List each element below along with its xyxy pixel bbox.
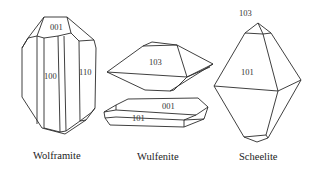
wulfenite-face-label-001: 001: [162, 101, 175, 111]
wolframite-prism-edge-4: [64, 36, 66, 131]
wolframite-face-label-001: 001: [50, 22, 63, 32]
caption-wolframite: Wolframite: [33, 150, 81, 161]
wulfenite-pyramidal-crystal: 103: [107, 42, 213, 91]
wulfenite-tab-top-edge: [104, 107, 208, 115]
wulfenite-tabular-crystal: 001 101: [104, 98, 208, 127]
wulfenite-face-label-101: 101: [132, 113, 145, 123]
scheelite-bottom-facet: [244, 135, 268, 138]
wulfenite-pyramid-bottom-facet-2: [187, 67, 210, 77]
wolframite-prism-edge-5: [79, 41, 80, 121]
caption-scheelite: Scheelite: [239, 151, 278, 162]
scheelite-face-label-103: 103: [239, 8, 252, 18]
wolframite-crystal: 001 100 110: [22, 17, 96, 134]
wolframite-face-label-110: 110: [79, 67, 91, 77]
scheelite-crystal: 103 101: [214, 8, 301, 142]
wolframite-top-left-edge: [22, 38, 28, 48]
scheelite-upper-edge: [263, 34, 278, 91]
wolframite-top-face-lower: [37, 33, 94, 41]
crystal-habits-diagram: 001 100 110 103 001 101 103 101 Wolfra: [0, 0, 318, 171]
wulfenite-face-label-103: 103: [149, 57, 162, 67]
caption-wulfenite: Wulfenite: [137, 151, 179, 162]
scheelite-outline: [214, 23, 301, 142]
wolframite-prism-edge-3: [58, 36, 60, 132]
wolframite-face-label-100: 100: [44, 71, 57, 81]
scheelite-face-label-101: 101: [241, 67, 254, 77]
wulfenite-pyramid-top: [143, 45, 177, 46]
scheelite-equator: [214, 80, 301, 91]
wolframite-bottom-facet: [80, 108, 95, 121]
scheelite-top-facet: [245, 33, 271, 34]
scheelite-lower-edge: [266, 91, 278, 135]
